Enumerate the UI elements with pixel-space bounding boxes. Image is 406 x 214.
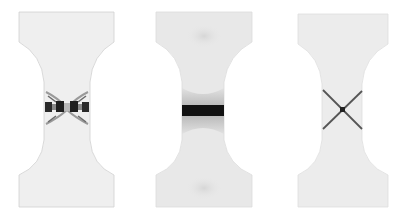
- specimen-middle: [156, 12, 252, 207]
- specimen-right: [298, 14, 388, 207]
- localization-band: [182, 105, 224, 116]
- specimen-left: [19, 12, 114, 207]
- specimen-figure: [0, 0, 406, 214]
